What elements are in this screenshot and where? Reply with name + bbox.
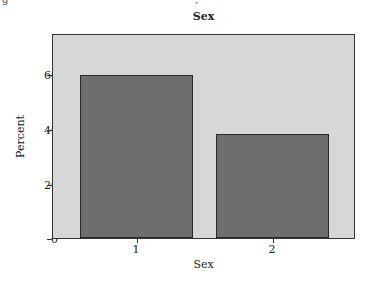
- x-tick-label: 2: [262, 243, 282, 256]
- y-tick: [47, 130, 52, 131]
- cropped-text-fragment: g: [2, 0, 8, 5]
- cropped-text-fragment: ,: [195, 0, 198, 5]
- x-tick-label: 1: [126, 243, 146, 256]
- chart-title: Sex: [52, 10, 355, 23]
- bar-category-1: [80, 75, 193, 238]
- x-axis-title: Sex: [52, 258, 355, 271]
- y-tick: [47, 185, 52, 186]
- bar-category-2: [216, 134, 329, 238]
- plot-area: [52, 34, 355, 239]
- y-axis-title: Percent: [14, 107, 27, 167]
- y-tick: [47, 75, 52, 76]
- y-tick: [47, 239, 52, 240]
